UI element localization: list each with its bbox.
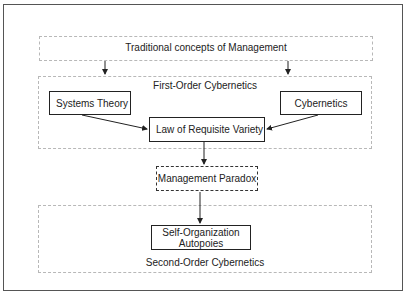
management-paradox-label: Management Paradox [158, 173, 256, 184]
cybernetics-node: Cybernetics [280, 91, 362, 115]
law-of-requisite-variety-label: Law of Requisite Variety [156, 124, 263, 135]
self-organization-label: Self-Organization [162, 227, 239, 238]
second-order-cybernetics-label: Second-Order Cybernetics [38, 257, 372, 269]
management-paradox-node: Management Paradox [156, 166, 258, 191]
autopoiesis-label: Autopoies [179, 238, 223, 249]
law-of-requisite-variety-node: Law of Requisite Variety [149, 117, 265, 142]
cybernetics-label: Cybernetics [295, 98, 348, 109]
systems-theory-label: Systems Theory [56, 98, 128, 109]
systems-theory-node: Systems Theory [49, 91, 131, 115]
self-organization-autopoiesis-node: Self-Organization Autopoies [151, 225, 251, 250]
traditional-management-label: Traditional concepts of Management [39, 42, 373, 54]
